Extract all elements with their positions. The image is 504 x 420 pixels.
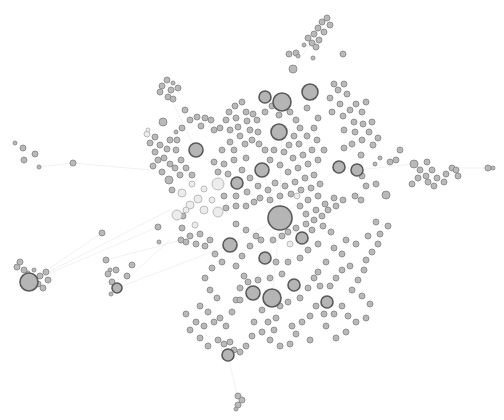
graph-node[interactable] [363, 257, 369, 263]
graph-node[interactable] [171, 81, 175, 85]
graph-node[interactable] [319, 19, 325, 25]
graph-node[interactable] [311, 275, 317, 281]
graph-node[interactable] [296, 141, 302, 147]
graph-node[interactable] [258, 237, 264, 243]
graph-node[interactable] [193, 241, 199, 247]
graph-node[interactable] [249, 333, 255, 339]
graph-node[interactable] [315, 241, 321, 247]
graph-node[interactable] [254, 117, 260, 123]
graph-node[interactable] [297, 203, 303, 209]
graph-node[interactable] [150, 163, 156, 169]
graph-node[interactable] [167, 137, 173, 143]
graph-node[interactable] [277, 343, 283, 349]
graph-node[interactable] [315, 115, 321, 121]
graph-node[interactable] [214, 295, 220, 301]
graph-node[interactable] [233, 193, 239, 199]
graph-node[interactable] [124, 273, 130, 279]
graph-node[interactable] [293, 331, 299, 337]
graph-node[interactable] [205, 343, 211, 349]
graph-node[interactable] [305, 161, 311, 167]
graph-node[interactable] [423, 173, 429, 179]
graph-node-light[interactable] [209, 197, 215, 203]
graph-node[interactable] [234, 407, 238, 411]
graph-node[interactable] [410, 160, 418, 168]
graph-node-light[interactable] [183, 207, 189, 213]
graph-node[interactable] [237, 297, 243, 303]
graph-node[interactable] [302, 175, 308, 181]
graph-node[interactable] [313, 44, 319, 50]
graph-node[interactable] [152, 134, 158, 140]
graph-node[interactable] [239, 167, 245, 173]
graph-node[interactable] [305, 35, 311, 41]
graph-node[interactable] [147, 140, 153, 146]
graph-node[interactable] [313, 207, 319, 213]
graph-node[interactable] [286, 142, 292, 148]
graph-node[interactable] [307, 313, 313, 319]
graph-node[interactable] [320, 223, 326, 229]
graph-node[interactable] [324, 15, 330, 21]
graph-node[interactable] [285, 259, 291, 265]
graph-node[interactable] [223, 205, 229, 211]
graph-node[interactable] [219, 147, 225, 153]
graph-node[interactable] [21, 157, 27, 163]
graph-node[interactable] [366, 129, 372, 135]
graph-node[interactable] [325, 207, 331, 213]
graph-node[interactable] [289, 65, 297, 73]
graph-node[interactable] [340, 51, 346, 57]
graph-node[interactable] [455, 173, 461, 179]
graph-node[interactable] [103, 257, 109, 263]
graph-node[interactable] [323, 259, 329, 265]
graph-node[interactable] [387, 159, 393, 165]
graph-node[interactable] [290, 155, 296, 161]
graph-node[interactable] [173, 147, 179, 153]
graph-node[interactable] [20, 145, 26, 151]
graph-node[interactable] [247, 243, 253, 249]
graph-node[interactable] [311, 172, 317, 178]
graph-node[interactable] [179, 125, 185, 131]
graph-node[interactable] [309, 147, 315, 153]
graph-node-light[interactable] [178, 189, 186, 197]
graph-node[interactable] [308, 185, 314, 191]
graph-node[interactable] [155, 157, 161, 163]
graph-node[interactable] [352, 129, 358, 135]
graph-node[interactable] [303, 221, 309, 227]
graph-node[interactable] [339, 251, 345, 257]
graph-hub-node[interactable] [273, 93, 291, 111]
graph-node[interactable] [251, 319, 257, 325]
graph-hub-node[interactable] [263, 289, 281, 307]
graph-node[interactable] [208, 117, 214, 123]
graph-node[interactable] [296, 54, 300, 58]
graph-node[interactable] [417, 167, 423, 173]
graph-node[interactable] [172, 165, 178, 171]
graph-node[interactable] [247, 127, 253, 133]
graph-hub-node[interactable] [259, 252, 271, 264]
graph-node[interactable] [217, 125, 223, 131]
graph-node[interactable] [359, 137, 365, 143]
graph-node[interactable] [237, 285, 243, 291]
graph-node[interactable] [187, 233, 193, 239]
graph-node[interactable] [369, 119, 375, 125]
graph-node[interactable] [297, 255, 303, 261]
graph-node[interactable] [221, 193, 227, 199]
graph-node[interactable] [197, 231, 203, 237]
graph-node[interactable] [32, 151, 38, 157]
graph-node[interactable] [227, 139, 233, 145]
graph-node[interactable] [347, 263, 353, 269]
graph-hub-node[interactable] [246, 286, 260, 300]
graph-node[interactable] [322, 201, 328, 207]
graph-node[interactable] [175, 85, 181, 91]
graph-node[interactable] [212, 251, 218, 257]
graph-node[interactable] [271, 147, 277, 153]
graph-node[interactable] [359, 109, 365, 115]
graph-node[interactable] [197, 335, 203, 341]
graph-hub-node[interactable] [20, 273, 38, 291]
graph-node[interactable] [352, 193, 358, 199]
graph-node[interactable] [327, 283, 333, 289]
graph-node[interactable] [292, 179, 298, 185]
graph-node[interactable] [239, 397, 245, 403]
graph-node[interactable] [182, 107, 188, 113]
graph-hub-node[interactable] [231, 177, 243, 189]
graph-node[interactable] [369, 249, 375, 255]
graph-node[interactable] [409, 181, 415, 187]
graph-node[interactable] [287, 341, 293, 347]
